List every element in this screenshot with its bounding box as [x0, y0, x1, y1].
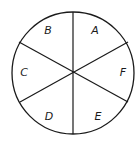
sector-label-a: A	[90, 24, 99, 37]
sector-label-e: E	[95, 110, 102, 123]
sector-diagram: B A C F D E	[0, 0, 140, 141]
sector-label-d: D	[45, 110, 53, 123]
sector-label-c: C	[20, 66, 28, 79]
sector-label-f: F	[120, 66, 127, 79]
sector-label-b: B	[44, 24, 52, 37]
